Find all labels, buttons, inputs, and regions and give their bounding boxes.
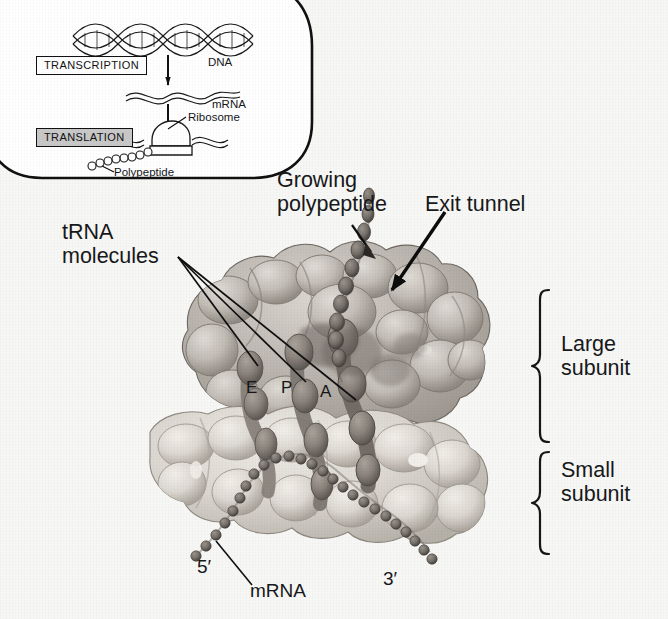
small-subunit-label-line1: Small [561,458,615,482]
growing-polypeptide-label-line1: Growing [277,168,357,192]
p-site-label: P [281,378,292,397]
ribosome-translation-figure: TRANSCRIPTION TRANSLATION DNA mRNA Ribos… [0,0,668,619]
bracket-large-subunit [532,290,549,442]
trna-molecules-label-line2: molecules [62,244,159,268]
small-subunit-label-line2: subunit [561,482,630,506]
large-subunit-label-line1: Large [561,332,616,356]
inset-ribosome-label: Ribosome [188,111,240,124]
exit-tunnel-label: Exit tunnel [425,192,525,216]
a-site-label: A [320,382,331,401]
five-prime-label: 5′ [197,556,211,577]
leader-five-prime [216,541,252,585]
inset-mrna-label: mRNA [212,98,246,111]
growing-polypeptide-label-line2: polypeptide [277,192,387,216]
three-prime-label: 3′ [383,568,397,589]
large-subunit-label-line2: subunit [561,356,630,380]
inset-panel [0,0,312,178]
inset-polypeptide-label: Polypeptide [114,166,174,179]
bracket-small-subunit [532,452,549,554]
e-site-label: E [246,378,257,397]
mrna-label: mRNA [250,580,306,601]
figure-artwork [0,0,668,619]
trna-molecules-label-line1: tRNA [62,220,113,244]
subunit-brackets [532,290,549,554]
inset-transcription-box: TRANSCRIPTION [36,56,147,75]
inset-translation-box: TRANSLATION [36,128,133,147]
inset-dna-label: DNA [208,56,232,69]
